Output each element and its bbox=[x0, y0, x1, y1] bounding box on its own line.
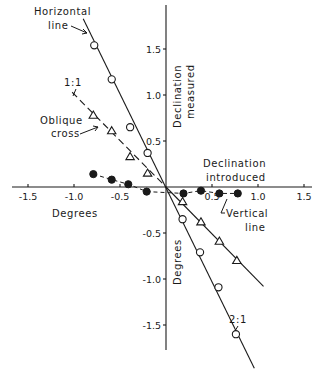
point-filled-circle bbox=[234, 190, 241, 197]
point-open-circle bbox=[108, 76, 115, 83]
point-filled-circle bbox=[90, 171, 97, 178]
label-oblique-cross: cross bbox=[51, 128, 80, 139]
point-open-triangle bbox=[126, 152, 134, 159]
x-tick-label: 1.5 bbox=[296, 191, 311, 202]
point-open-circle bbox=[127, 124, 134, 131]
y-tick-label: -1.0 bbox=[142, 274, 161, 285]
label-horizontal: Horizontal bbox=[34, 6, 91, 17]
point-open-triangle bbox=[197, 218, 205, 225]
declination-chart: -1.5-1.0-0.50.51.01.51.51.00.5-0.5-1.0-1… bbox=[0, 0, 319, 378]
x-tick-label: 1.0 bbox=[250, 191, 265, 202]
point-open-triangle bbox=[143, 169, 151, 176]
point-open-triangle bbox=[233, 256, 241, 263]
y-tick-label: 1.5 bbox=[146, 44, 161, 55]
label-vertical-line: line bbox=[245, 222, 265, 233]
point-open-circle bbox=[232, 331, 239, 338]
point-filled-circle bbox=[143, 188, 150, 195]
point-open-circle bbox=[144, 149, 151, 156]
data-points bbox=[89, 42, 241, 338]
x-axis-title-2: introduced bbox=[206, 172, 266, 183]
point-filled-circle bbox=[125, 181, 132, 188]
x-tick-label: -1.5 bbox=[19, 191, 38, 202]
axes: -1.5-1.0-0.50.51.01.51.51.00.5-0.5-1.0-1… bbox=[12, 5, 312, 350]
y-tick-label: -1.5 bbox=[142, 320, 161, 331]
label-ratio-2-1: 2:1 bbox=[229, 314, 247, 325]
y-axis-title-2: measured bbox=[185, 64, 196, 119]
label-horizontal-line: line bbox=[48, 20, 68, 31]
point-open-circle bbox=[196, 249, 203, 256]
point-open-circle bbox=[179, 216, 186, 223]
arrow-horizontal-icon bbox=[71, 26, 87, 33]
point-open-triangle bbox=[89, 111, 97, 118]
point-open-circle bbox=[215, 284, 222, 291]
point-open-triangle bbox=[108, 127, 116, 134]
label-oblique: Oblique bbox=[40, 115, 83, 126]
point-filled-circle bbox=[197, 187, 204, 194]
y-tick-label: -0.5 bbox=[142, 228, 161, 239]
y-axis-unit: Degrees bbox=[172, 239, 183, 285]
label-vertical: Vertical bbox=[226, 208, 268, 219]
point-open-circle bbox=[91, 42, 98, 49]
x-axis-title-1: Declination bbox=[203, 158, 266, 169]
x-tick-label: -0.5 bbox=[111, 191, 130, 202]
point-filled-circle bbox=[180, 190, 187, 197]
point-filled-circle bbox=[108, 176, 115, 183]
point-filled-circle bbox=[216, 190, 223, 197]
x-tick-label: -1.0 bbox=[65, 191, 84, 202]
y-axis-title-1: Declination bbox=[172, 65, 183, 128]
y-tick-label: 0.5 bbox=[146, 136, 161, 147]
x-axis-unit: Degrees bbox=[52, 208, 98, 219]
y-tick-label: 1.0 bbox=[146, 90, 161, 101]
label-ratio-1-1: 1:1 bbox=[64, 77, 82, 88]
